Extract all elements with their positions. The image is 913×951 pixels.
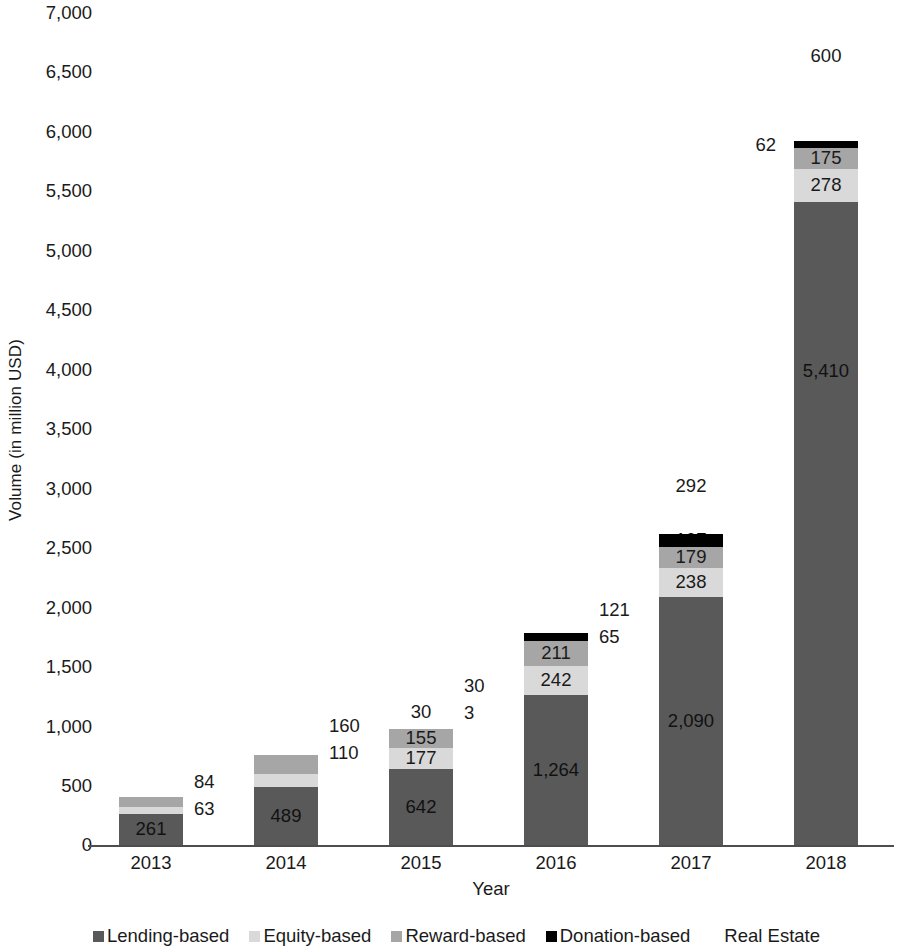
segment-label-real-estate-2016-outside: 121 [599, 599, 630, 621]
segment-reward-2014[interactable] [254, 755, 318, 774]
segment-equity-2015[interactable]: 177 [389, 748, 453, 769]
y-tick-6000: 6,000 [30, 121, 92, 143]
legend-item-lending-based[interactable]: Lending-based [93, 925, 229, 947]
segment-label-reward-2017: 179 [676, 548, 707, 567]
y-tick-5500: 5,500 [30, 180, 92, 202]
legend-swatch-icon-real-estate [710, 931, 721, 942]
segment-equity-2016[interactable]: 242 [524, 666, 588, 695]
segment-equity-2014[interactable] [254, 774, 318, 787]
segment-label-lending-2014: 489 [271, 807, 302, 826]
bar-group-2018[interactable]: 600 62 175 278 5,410 [763, 13, 889, 845]
legend-swatch-icon-equity [249, 931, 260, 942]
segment-label-donation-2018: 62 [755, 135, 776, 154]
legend-swatch-icon-reward [391, 931, 402, 942]
segment-label-lending-2015: 642 [406, 798, 437, 817]
y-tick-3500: 3,500 [30, 418, 92, 440]
bar-group-2017[interactable]: 292 107 179 238 2,090 [628, 13, 754, 845]
segment-label-reward-2015: 155 [406, 729, 437, 748]
bar-stack-2015[interactable]: 30 155 177 642 [389, 725, 453, 845]
bar-stack-2013[interactable]: 261 [119, 797, 183, 845]
y-tick-4500: 4,500 [30, 299, 92, 321]
segment-donation-2016[interactable] [524, 633, 588, 641]
y-tick-7000: 7,000 [30, 2, 92, 24]
legend-label-real-estate: Real Estate [724, 925, 820, 947]
segment-label-reward-2016: 211 [541, 644, 571, 663]
segment-equity-2013[interactable] [119, 807, 183, 814]
x-tick-2015: 2015 [358, 852, 484, 874]
x-tick-2016: 2016 [493, 852, 619, 874]
segment-label-reward-2014: 160 [329, 715, 360, 737]
segment-label-equity-2018: 278 [811, 176, 842, 195]
segment-donation-2017[interactable]: 107 [659, 534, 723, 547]
bar-stack-2016[interactable]: 211 242 1,264 [524, 619, 588, 845]
y-tick-1000: 1,000 [30, 716, 92, 738]
legend-swatch-icon-lending [93, 931, 104, 942]
y-tick-6500: 6,500 [30, 61, 92, 83]
segment-label-donation-2016-outside: 65 [599, 626, 620, 648]
x-tick-2013: 2013 [88, 852, 214, 874]
bar-group-2014[interactable]: 489 160 110 [223, 13, 349, 845]
plot-area: 261 84 63 489 160 1 [88, 13, 898, 845]
segment-label-reward-2018: 175 [811, 149, 842, 168]
legend-item-reward-based[interactable]: Reward-based [391, 925, 525, 947]
segment-equity-2017[interactable]: 238 [659, 568, 723, 596]
y-axis-title: Volume (in million USD) [0, 0, 32, 860]
segment-label-equity-2013: 63 [194, 798, 215, 820]
segment-reward-2013[interactable] [119, 797, 183, 807]
legend-item-equity-based[interactable]: Equity-based [249, 925, 371, 947]
y-tick-1500: 1,500 [30, 656, 92, 678]
segment-label-lending-2017: 2,090 [668, 712, 714, 731]
legend-label-reward: Reward-based [405, 925, 525, 947]
segment-label-equity-2017: 238 [676, 573, 707, 592]
chart-legend: Lending-based Equity-based Reward-based … [0, 925, 913, 947]
x-tick-2017: 2017 [628, 852, 754, 874]
segment-label-equity-2014: 110 [329, 742, 359, 764]
bar-stack-2014[interactable]: 489 [254, 755, 318, 845]
bar-group-2016[interactable]: 211 242 1,264 121 65 [493, 13, 619, 845]
y-tick-0: 0 [30, 834, 92, 856]
x-tick-2014: 2014 [223, 852, 349, 874]
legend-label-donation: Donation-based [560, 925, 691, 947]
segment-real-estate-2018[interactable]: 600 [794, 70, 858, 141]
segment-label-real-estate-2018: 600 [811, 47, 842, 66]
segment-equity-2018[interactable]: 278 [794, 169, 858, 202]
segment-label-lending-2016: 1,264 [533, 761, 579, 780]
y-tick-4000: 4,000 [30, 359, 92, 381]
segment-lending-2018[interactable]: 5,410 [794, 202, 858, 845]
x-axis-title: Year [88, 878, 894, 900]
segment-label-donation-2015-outside: 3 [464, 702, 474, 724]
segment-lending-2017[interactable]: 2,090 [659, 597, 723, 845]
segment-label-real-estate-2015: 30 [411, 703, 432, 722]
y-tick-3000: 3,000 [30, 478, 92, 500]
legend-label-equity: Equity-based [263, 925, 371, 947]
legend-label-lending: Lending-based [107, 925, 229, 947]
segment-reward-2015[interactable]: 155 [389, 729, 453, 747]
segment-label-equity-2015: 177 [406, 749, 437, 768]
legend-swatch-icon-donation [546, 931, 557, 942]
bar-group-2013[interactable]: 261 84 63 [88, 13, 214, 845]
segment-lending-2013[interactable]: 261 [119, 814, 183, 845]
legend-item-donation-based[interactable]: Donation-based [546, 925, 691, 947]
segment-lending-2015[interactable]: 642 [389, 769, 453, 845]
bar-stack-2017[interactable]: 292 107 179 238 2,090 [659, 500, 723, 845]
bar-group-2015[interactable]: 30 155 177 642 30 3 [358, 13, 484, 845]
segment-reward-2018[interactable]: 175 [794, 148, 858, 169]
y-tick-2500: 2,500 [30, 537, 92, 559]
segment-real-estate-2016[interactable] [524, 619, 588, 633]
segment-label-reward-2013: 84 [194, 771, 215, 793]
segment-label-real-estate-2017: 292 [676, 477, 707, 496]
segment-reward-2016[interactable]: 211 [524, 641, 588, 666]
segment-label-lending-2013: 261 [136, 820, 167, 839]
y-axis-title-label: Volume (in million USD) [6, 339, 26, 521]
segment-lending-2014[interactable]: 489 [254, 787, 318, 845]
segment-label-lending-2018: 5,410 [803, 362, 849, 381]
legend-item-real-estate[interactable]: Real Estate [710, 925, 820, 947]
segment-label-real-estate-2015-outside: 30 [464, 675, 485, 697]
bar-stack-2018[interactable]: 600 62 175 278 5,410 [794, 70, 858, 845]
segment-lending-2016[interactable]: 1,264 [524, 695, 588, 845]
x-tick-2018: 2018 [763, 852, 889, 874]
segment-reward-2017[interactable]: 179 [659, 547, 723, 568]
y-tick-500: 500 [30, 775, 92, 797]
x-axis-line [88, 845, 894, 847]
y-tick-2000: 2,000 [30, 597, 92, 619]
